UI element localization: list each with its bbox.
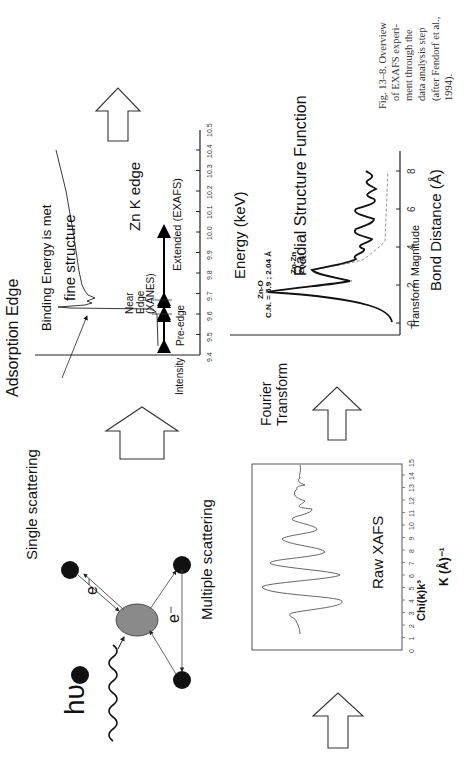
figure-caption: Fig. 13–8. Overview of EXAFS experi- men… — [376, 17, 455, 109]
pre-edge-label: Pre-edge — [176, 305, 187, 346]
energy-tick-labels: 9.4 9.5 9.6 9.7 9.8 9.9 10.0 10.1 10.2 1… — [206, 122, 216, 362]
coordination-number-label: C.N. = 5.9 ; 2.04 Å — [265, 251, 273, 318]
radial-structure-title: Radial Structure Function — [293, 95, 310, 276]
figure-graphics — [0, 0, 469, 771]
intensity-axis-label: Intensity — [175, 358, 186, 395]
figure-page: hυ Single scattering Multiple scattering… — [0, 0, 469, 771]
atom-icon — [71, 666, 89, 684]
zn-k-edge-label: Zn K edge — [127, 162, 143, 231]
exafs-label: Extended (EXAFS) — [172, 178, 184, 271]
flow-arrow-icon — [313, 693, 363, 748]
electron-label: e⁻ — [84, 578, 101, 595]
multiple-scattering-label: Multiple scattering — [199, 499, 215, 620]
flow-arrow-icon — [106, 407, 178, 459]
radial-structure-chart — [230, 151, 400, 335]
flow-arrow-icon — [96, 88, 140, 141]
adsorption-edge-label: Adsorption Edge — [5, 279, 22, 397]
binding-energy-label: Binding Energy is met — [40, 205, 54, 331]
single-scattering-label: Single scattering — [24, 449, 40, 560]
k-tick-labels: 0 1 2 3 4 5 6 7 8 9 10 11 12 13 14 15 — [408, 453, 418, 653]
electron-label: e⁻ — [166, 606, 183, 623]
xanes-label: Near Edge (XANES) — [125, 274, 157, 314]
atom-icon — [61, 561, 79, 579]
raw-xafs-title: Raw XAFS — [370, 516, 386, 589]
photon-wave-icon — [109, 645, 117, 741]
photon-label: hυ — [60, 684, 89, 715]
bond-distance-tick-labels: 0 2 4 6 8 — [407, 156, 417, 326]
zn-al-label: Zn-Al — [298, 254, 306, 274]
fourier-transform-label: Fourier Transform — [258, 363, 290, 426]
bond-distance-label: Bond Distance (Å) — [428, 169, 444, 291]
fine-structure-label: fine structure — [62, 214, 78, 301]
fourier-arrow-icon — [313, 387, 361, 440]
energy-axis-label: Energy (keV) — [232, 191, 248, 279]
k-axis-label: K (Å)⁻¹ — [438, 547, 451, 586]
